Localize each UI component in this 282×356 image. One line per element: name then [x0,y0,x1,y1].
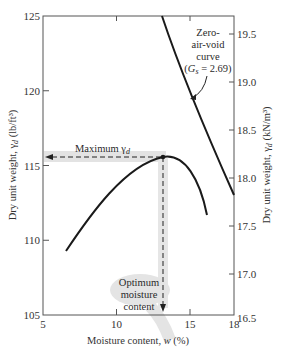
svg-text:Optimum: Optimum [119,277,159,288]
zav-label: Zero- air-void curve (Gs = 2.69) [184,27,232,76]
svg-text:17.0: 17.0 [237,268,257,280]
svg-text:105: 105 [24,309,41,321]
left-tick-labels: 125 120 115 110 105 [24,10,41,321]
right-tick-labels: 19.5 19.0 18.5 18.0 17.5 17.0 16.5 [237,28,257,324]
svg-text:5: 5 [40,318,46,330]
zav-pointer [192,76,207,98]
compaction-curve [66,157,207,251]
right-y-axis-title: Dry unit weight, γd (kN/m³) [261,106,274,224]
svg-text:115: 115 [24,160,41,172]
left-y-axis-title: Dry unit weight, γd (lb/ft³) [7,109,20,220]
optimum-label: Optimum moisture content [119,277,159,312]
svg-text:air-void: air-void [191,39,225,50]
svg-text:moisture: moisture [121,289,158,300]
svg-text:120: 120 [24,85,41,97]
svg-text:curve: curve [196,51,220,62]
svg-text:19.0: 19.0 [237,76,257,88]
svg-text:16.5: 16.5 [237,312,257,324]
left-axis-ticks [43,91,49,241]
svg-text:(Gs = 2.69): (Gs = 2.69) [184,63,232,76]
x-axis-title: Moisture content, w (%) [87,335,190,347]
compaction-chart: 125 120 115 110 105 5 10 15 18 19.5 19.0… [0,0,282,356]
maximum-point [161,155,166,160]
svg-text:17.5: 17.5 [237,220,257,232]
svg-text:125: 125 [24,10,41,22]
bottom-tick-labels: 5 10 15 18 [40,318,240,330]
svg-text:content: content [124,301,155,312]
svg-text:19.5: 19.5 [237,28,257,40]
svg-text:15: 15 [185,318,197,330]
svg-text:110: 110 [24,234,41,246]
svg-text:18.5: 18.5 [237,124,257,136]
svg-text:10: 10 [111,318,123,330]
svg-text:18.0: 18.0 [237,172,257,184]
svg-text:Zero-: Zero- [196,27,220,38]
